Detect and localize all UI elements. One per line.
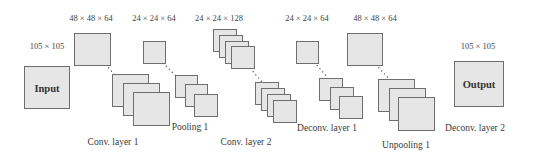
- deconv1-label: Deconv. layer 1: [297, 123, 357, 133]
- conv2-label: Conv. layer 2: [221, 137, 272, 147]
- network-diagram: 105 × 105 Input 48 × 48 × 64 Conv. layer…: [0, 0, 538, 161]
- deconv1-filter-box: [296, 41, 319, 64]
- conv1-label: Conv. layer 1: [88, 137, 139, 147]
- pool1-filter-box: [143, 41, 166, 64]
- output-box: Output: [454, 61, 504, 107]
- input-size-label: 105 × 105: [30, 41, 65, 51]
- conv2-feature-map-4: [273, 100, 297, 123]
- output-size-label: 105 × 105: [461, 41, 496, 51]
- unpool1-dims-label: 48 × 48 × 64: [353, 13, 397, 23]
- input-box-label: Input: [25, 82, 69, 93]
- conv1-dims-label: 48 × 48 × 64: [69, 13, 113, 23]
- pool1-label: Pooling 1: [172, 122, 209, 132]
- conv2-dims-label: 24 × 24 × 128: [195, 13, 243, 23]
- unpool1-feature-map-3: [398, 97, 435, 131]
- pool1-feature-map-3: [194, 94, 218, 117]
- pool1-dims-label: 24 × 24 × 64: [132, 13, 176, 23]
- connector-conv2: [250, 68, 262, 82]
- input-box: Input: [24, 66, 70, 109]
- conv1-feature-map-3: [133, 92, 170, 126]
- connector-deconv1: [314, 62, 328, 78]
- conv1-filter-box: [74, 33, 111, 66]
- deconv2-label: Deconv. layer 2: [445, 123, 505, 133]
- conv2-filter-box-4: [231, 46, 255, 69]
- deconv1-feature-map-3: [339, 96, 363, 119]
- unpool1-label: Unpooling 1: [382, 140, 430, 150]
- unpool1-filter-box: [347, 33, 383, 66]
- output-box-label: Output: [455, 79, 503, 90]
- deconv1-dims-label: 24 × 24 × 64: [285, 13, 329, 23]
